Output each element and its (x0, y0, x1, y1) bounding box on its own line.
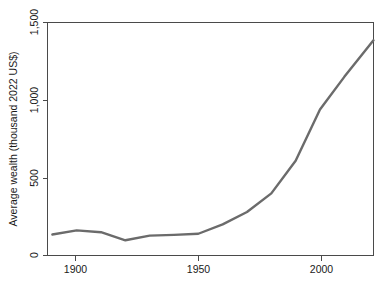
x-tick-label-2000: 2000 (310, 263, 334, 275)
series-line-average-wealth (52, 40, 373, 240)
y-tick-label-1000: 1,000 (28, 87, 40, 113)
x-tick-label-1950: 1950 (187, 263, 211, 275)
y-tick-label-500: 500 (28, 169, 40, 187)
y-axis-title: Average wealth (thousand 2022 US$) (7, 52, 19, 227)
chart-figure: 1,500 1,000 500 0 1900 1950 2000 Average… (0, 0, 384, 286)
x-tick-label-1900: 1900 (64, 263, 88, 275)
line-chart: 1,500 1,000 500 0 1900 1950 2000 Average… (0, 0, 384, 286)
y-tick-label-1500: 1,500 (28, 9, 40, 35)
y-tick-label-0: 0 (28, 252, 40, 258)
